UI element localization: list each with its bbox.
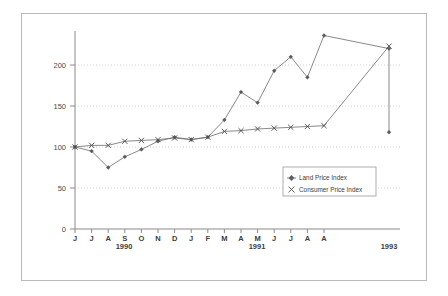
x-tick-label-1: J bbox=[90, 234, 94, 243]
data-point-marker bbox=[387, 130, 391, 134]
x-tick-label-12: J bbox=[272, 234, 276, 243]
axes bbox=[75, 31, 400, 229]
data-point-marker bbox=[256, 101, 260, 105]
data-point-marker bbox=[140, 148, 144, 152]
y-tick-label-100: 100 bbox=[53, 143, 66, 152]
legend-label-consumer-price-index: Consumer Price Index bbox=[299, 186, 363, 193]
x-tick-label-10: A bbox=[238, 234, 244, 243]
y-tick-label-50: 50 bbox=[58, 184, 66, 193]
data-series-layer bbox=[72, 34, 391, 170]
series-land-price-index bbox=[73, 34, 391, 170]
legend-label-land-price-index: Land Price Index bbox=[299, 174, 348, 181]
y-tick-label-200: 200 bbox=[53, 61, 66, 70]
line-chart-plot: 0 50 100 150 200 JJASONDJFMAMJJAA 1990 1… bbox=[0, 0, 448, 296]
x-year-label-1991: 1991 bbox=[249, 242, 266, 251]
y-tick-labels: 0 50 100 150 200 bbox=[53, 61, 66, 234]
x-tick-label-6: D bbox=[172, 234, 178, 243]
x-year-label-1993: 1993 bbox=[381, 242, 398, 251]
x-year-labels: 1990 1991 1993 bbox=[116, 242, 398, 251]
y-tick-label-0: 0 bbox=[62, 225, 66, 234]
x-tick-label-2: A bbox=[105, 234, 111, 243]
x-tick-label-14: A bbox=[305, 234, 311, 243]
y-tick-label-150: 150 bbox=[53, 102, 66, 111]
series-line-0 bbox=[75, 35, 389, 167]
x-tick-labels: JJASONDJFMAMJJAA bbox=[73, 234, 327, 243]
series-line-1 bbox=[75, 46, 389, 147]
data-point-marker bbox=[322, 34, 326, 38]
x-tick-label-4: O bbox=[138, 234, 144, 243]
chart-figure: 0 50 100 150 200 JJASONDJFMAMJJAA 1990 1… bbox=[0, 0, 448, 296]
x-tick-label-13: J bbox=[289, 234, 293, 243]
chart-legend[interactable]: Land Price Index Consumer Price Index bbox=[283, 167, 376, 196]
x-tick-label-9: M bbox=[221, 234, 227, 243]
data-point-marker bbox=[239, 90, 243, 94]
x-tick-label-8: F bbox=[206, 234, 211, 243]
x-tick-label-15: A bbox=[321, 234, 327, 243]
series-consumer-price-index bbox=[72, 44, 391, 150]
x-tick-label-7: J bbox=[189, 234, 193, 243]
x-tick-label-0: J bbox=[73, 234, 77, 243]
data-point-marker bbox=[123, 155, 127, 159]
x-year-label-1990: 1990 bbox=[116, 242, 133, 251]
x-tickmarks bbox=[75, 229, 324, 233]
x-tick-label-5: N bbox=[155, 234, 160, 243]
